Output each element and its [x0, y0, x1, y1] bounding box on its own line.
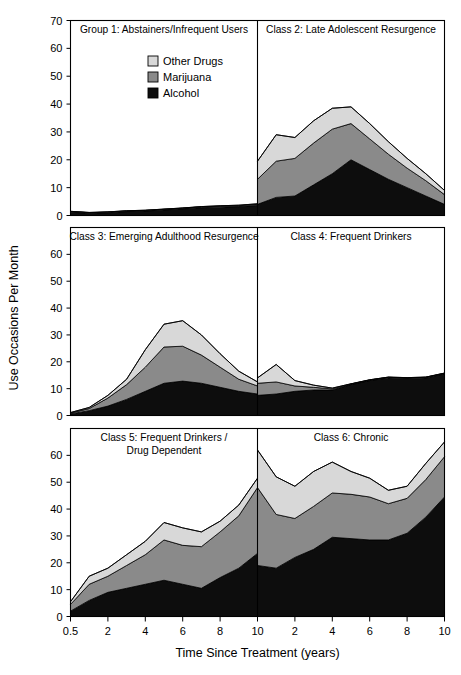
panel-title-group1: Group 1: Abstainers/Infrequent Users	[80, 24, 248, 35]
legend-swatch-alcohol	[148, 88, 158, 98]
legend-label-marijuana: Marijuana	[163, 71, 212, 83]
legend-swatch-marijuana	[148, 72, 158, 82]
xtick-label-0: 0.5	[63, 625, 78, 637]
panel-class2: Class 2: Late Adolescent Resurgence	[258, 24, 445, 216]
ytick-label-row2-60: 60	[50, 449, 62, 461]
x-axis-title: Time Since Treatment (years)	[175, 646, 339, 660]
ytick-label-row0-0: 0	[56, 210, 62, 222]
ytick-label-row1-0: 0	[56, 410, 62, 422]
ytick-label-row1-10: 10	[50, 383, 62, 395]
xtick-label-1: 2	[105, 625, 111, 637]
ytick-label-row0-40: 40	[50, 98, 62, 110]
ytick-label-row1-50: 50	[50, 275, 62, 287]
panel-class5: Class 5: Frequent Drinkers /Drug Depende…	[71, 432, 258, 617]
ytick-label-row2-40: 40	[50, 503, 62, 515]
ytick-label-row2-0: 0	[56, 611, 62, 623]
panel-title-class2: Class 2: Late Adolescent Resurgence	[266, 24, 436, 35]
ytick-label-row0-60: 60	[50, 42, 62, 54]
panel-class4: Class 4: Frequent Drinkers	[258, 231, 445, 416]
legend-label-alcohol: Alcohol	[163, 87, 199, 99]
ytick-label-row1-30: 30	[50, 329, 62, 341]
ytick-label-row1-60: 60	[50, 248, 62, 260]
panel-class6: Class 6: Chronic	[258, 432, 445, 617]
panel-title-class5: Class 5: Frequent Drinkers /	[101, 432, 228, 443]
xtick-label-7: 4	[329, 625, 335, 637]
legend-swatch-other-drugs	[148, 56, 158, 66]
ytick-label-row1-20: 20	[50, 356, 62, 368]
ytick-label-row2-30: 30	[50, 530, 62, 542]
panel-title-class6: Class 6: Chronic	[314, 432, 389, 443]
ytick-label-row0-50: 50	[50, 70, 62, 82]
chart-canvas: Group 1: Abstainers/Infrequent UsersClas…	[0, 0, 461, 675]
xtick-label-3: 6	[180, 625, 186, 637]
panel-title-class3: Class 3: Emerging Adulthood Resurgence	[69, 231, 258, 242]
ytick-label-row0-20: 20	[50, 154, 62, 166]
ytick-label-row0-70: 70	[50, 15, 62, 27]
legend-label-other-drugs: Other Drugs	[163, 55, 223, 67]
panel-group1: Group 1: Abstainers/Infrequent Users	[71, 24, 258, 216]
ytick-label-row0-30: 30	[50, 126, 62, 138]
xtick-label-6: 2	[292, 625, 298, 637]
figure-root: Group 1: Abstainers/Infrequent UsersClas…	[0, 0, 461, 675]
panel-class3: Class 3: Emerging Adulthood Resurgence	[69, 231, 258, 416]
y-axis-title: Use Occasions Per Month	[7, 245, 21, 390]
xtick-label-8: 6	[367, 625, 373, 637]
panel-title-class4: Class 4: Frequent Drinkers	[290, 231, 411, 242]
ytick-label-row2-50: 50	[50, 476, 62, 488]
xtick-label-5: 10	[251, 625, 263, 637]
panel-title-class5: Drug Dependent	[127, 445, 202, 456]
xtick-label-4: 8	[217, 625, 223, 637]
ytick-label-row1-40: 40	[50, 302, 62, 314]
xtick-label-10: 10	[438, 625, 450, 637]
xtick-label-2: 4	[142, 625, 148, 637]
ytick-label-row2-10: 10	[50, 584, 62, 596]
ytick-label-row0-10: 10	[50, 182, 62, 194]
ytick-label-row2-20: 20	[50, 557, 62, 569]
legend: Other DrugsMarijuanaAlcohol	[148, 55, 223, 99]
xtick-label-9: 8	[404, 625, 410, 637]
